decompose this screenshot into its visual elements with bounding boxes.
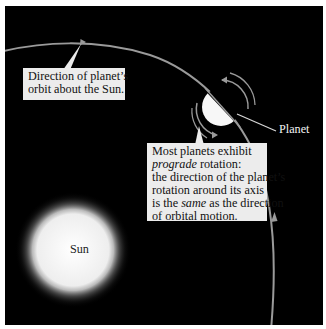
orbit-arrow-right-icon	[271, 212, 278, 222]
orbit-callout-pointer	[63, 44, 81, 70]
rotation-callout-line-5-pre: is the	[152, 196, 181, 210]
planet-leader-line	[237, 114, 276, 131]
rotation-arrow-upper-icon	[221, 77, 227, 84]
orbit-direction-callout: Direction of planet’s orbit about the Su…	[23, 68, 125, 100]
rotation-callout-line-6: of orbital motion.	[152, 210, 263, 223]
prograde-term: prograde	[152, 157, 197, 171]
planet-label: Planet	[279, 123, 309, 136]
rotation-arrow-lower-icon	[212, 132, 218, 139]
same-term: same	[181, 196, 206, 210]
rotation-callout-line-5-post: as the direction	[206, 196, 284, 210]
prograde-rotation-callout: Most planets exhibit prograde rotation: …	[147, 143, 267, 221]
orbit-callout-line-2: orbit about the Sun.	[28, 83, 121, 96]
diagram-stage: Direction of planet’s orbit about the Su…	[0, 0, 326, 329]
planet	[195, 80, 244, 132]
rotation-callout-line-2-rest: rotation:	[197, 157, 241, 171]
sun-label: Sun	[70, 243, 89, 256]
